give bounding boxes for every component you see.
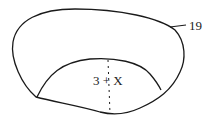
inner-region-label: 3 + X xyxy=(93,73,123,88)
outer-callout-label: 19 xyxy=(189,18,202,33)
diagram-canvas: 3 + X 19 xyxy=(0,0,214,125)
callout-leader-line xyxy=(170,25,186,27)
outer-boundary xyxy=(13,9,184,114)
